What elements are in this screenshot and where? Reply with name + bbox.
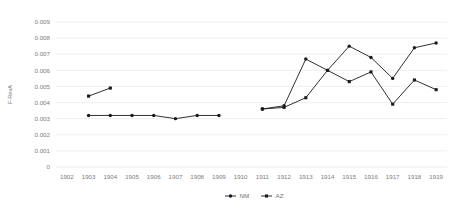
- x-axis-tick-label: 1919: [429, 173, 443, 180]
- x-axis-tick-label: 1912: [277, 173, 291, 180]
- data-point-marker: [391, 77, 394, 80]
- legend-item-az[interactable]: AZ: [261, 192, 284, 199]
- x-axis-tick-label: 1909: [212, 173, 226, 180]
- chart-legend: NMAZ: [225, 192, 284, 199]
- x-axis-tick-label: 1910: [234, 173, 248, 180]
- x-axis-tick-label: 1911: [256, 173, 270, 180]
- y-axis-tick-label: 0.005: [35, 83, 51, 90]
- data-point-marker: [304, 57, 307, 60]
- x-axis-tick-label: 1913: [299, 173, 313, 180]
- x-axis-tick-label: 1908: [190, 173, 204, 180]
- data-series-layer: [87, 41, 438, 120]
- data-point-marker: [174, 117, 177, 120]
- x-axis-tick-label: 1902: [60, 173, 74, 180]
- data-point-marker: [217, 114, 220, 117]
- chart-container: 00.0010.0020.0030.0040.0050.0060.0070.00…: [0, 0, 457, 209]
- series-line: [262, 70, 436, 109]
- x-axis-tick-label: 1917: [386, 173, 400, 180]
- x-axis-tick-label: 1916: [364, 173, 378, 180]
- legend-label: NM: [240, 192, 250, 199]
- y-axis-tick-label: 0.001: [35, 147, 51, 154]
- x-axis-tick-label: 1918: [408, 173, 422, 180]
- legend-marker-icon: [265, 194, 268, 197]
- y-axis-tick-label: 0.002: [35, 131, 51, 138]
- y-axis-tick-label: 0: [47, 163, 51, 170]
- legend-marker-icon: [229, 194, 232, 197]
- data-point-marker: [326, 69, 329, 72]
- y-axis-title: F-RevA: [7, 85, 13, 104]
- line-chart: 00.0010.0020.0030.0040.0050.0060.0070.00…: [0, 0, 457, 209]
- y-axis-tick-label: 0.003: [35, 115, 51, 122]
- x-axis-tick-label: 1914: [321, 173, 335, 180]
- series-line: [89, 88, 111, 96]
- data-point-marker: [434, 41, 437, 44]
- data-point-marker: [348, 44, 351, 47]
- data-point-marker: [413, 78, 416, 81]
- y-axis-tick-label: 0.004: [35, 99, 51, 106]
- data-point-marker: [283, 106, 286, 109]
- data-point-marker: [369, 70, 372, 73]
- data-point-marker: [87, 114, 90, 117]
- x-axis-tick-label: 1906: [147, 173, 161, 180]
- y-axis-tick-labels: 00.0010.0020.0030.0040.0050.0060.0070.00…: [35, 18, 51, 170]
- data-point-marker: [109, 87, 112, 90]
- y-axis-tick-label: 0.006: [35, 67, 51, 74]
- data-point-marker: [195, 114, 198, 117]
- y-axis-tick-label: 0.007: [35, 50, 51, 57]
- data-point-marker: [348, 80, 351, 83]
- x-axis-tick-label: 1905: [125, 173, 139, 180]
- data-point-marker: [304, 96, 307, 99]
- x-axis-tick-label: 1903: [82, 173, 96, 180]
- legend-label: AZ: [276, 192, 284, 199]
- series-line: [262, 43, 436, 109]
- data-point-marker: [435, 88, 438, 91]
- y-axis-tick-label: 0.008: [35, 34, 51, 41]
- x-axis-tick-label: 1904: [103, 173, 117, 180]
- data-point-marker: [369, 56, 372, 59]
- y-axis-tick-label: 0.009: [35, 18, 51, 25]
- data-point-marker: [130, 114, 133, 117]
- x-axis-tick-labels: 1902190319041905190619071908190919101911…: [60, 173, 444, 180]
- data-point-marker: [152, 114, 155, 117]
- data-point-marker: [87, 95, 90, 98]
- data-point-marker: [413, 46, 416, 49]
- y-axis-title-label: F-RevA: [7, 85, 13, 104]
- data-point-marker: [261, 107, 264, 110]
- x-axis-tick-label: 1915: [342, 173, 356, 180]
- data-point-marker: [391, 103, 394, 106]
- gridlines: [56, 22, 447, 167]
- legend-item-nm[interactable]: NM: [225, 192, 249, 199]
- x-axis-tick-label: 1907: [169, 173, 183, 180]
- data-point-marker: [109, 114, 112, 117]
- series-az: [87, 69, 438, 111]
